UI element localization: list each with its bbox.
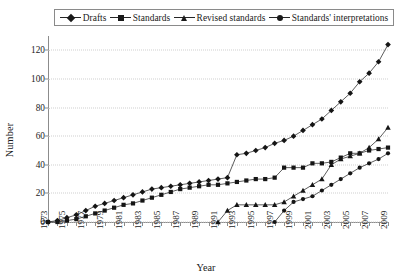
- legend-item-drafts[interactable]: Drafts: [60, 13, 107, 23]
- legend-item-standards-interpretations[interactable]: Standards' interpretations: [269, 13, 388, 23]
- x-tick-mark: [124, 222, 125, 226]
- x-tick-mark: [312, 222, 313, 226]
- data-point-marker: [121, 203, 125, 207]
- data-point-marker: [319, 176, 324, 181]
- data-point-marker: [216, 183, 220, 187]
- data-point-marker: [254, 177, 258, 181]
- y-axis-title: Number: [4, 122, 15, 157]
- x-tick-label: 1973: [39, 211, 48, 229]
- data-point-marker: [301, 166, 305, 170]
- triangle-marker-icon: [174, 14, 195, 22]
- data-point-marker: [263, 177, 267, 181]
- data-point-marker: [376, 147, 380, 151]
- data-point-marker: [244, 178, 248, 182]
- data-point-marker: [300, 188, 305, 193]
- legend-label: Standards: [133, 13, 170, 23]
- data-point-marker: [215, 176, 221, 182]
- data-point-marker: [329, 183, 333, 187]
- data-point-marker: [301, 197, 305, 201]
- data-point-marker: [291, 166, 295, 170]
- data-point-marker: [159, 193, 163, 197]
- data-point-marker: [376, 157, 380, 161]
- data-point-marker: [273, 220, 277, 224]
- data-point-marker: [225, 175, 231, 181]
- data-point-marker: [262, 145, 268, 151]
- data-point-marker: [93, 211, 97, 215]
- data-point-marker: [310, 182, 315, 187]
- data-point-marker: [112, 206, 116, 210]
- series-line-drafts: [48, 45, 388, 222]
- x-tick-mark: [142, 222, 143, 226]
- data-point-marker: [206, 178, 212, 184]
- data-point-marker: [84, 214, 88, 218]
- data-point-marker: [103, 208, 107, 212]
- data-point-marker: [74, 217, 78, 221]
- data-point-marker: [131, 201, 135, 205]
- data-point-marker: [188, 186, 192, 190]
- data-point-marker: [339, 177, 343, 181]
- data-point-marker: [253, 148, 259, 154]
- legend-label: Revised standards: [197, 13, 266, 23]
- data-point-marker: [65, 218, 69, 222]
- data-point-marker: [149, 186, 155, 192]
- y-tick-label: 40: [36, 160, 45, 169]
- data-point-marker: [235, 180, 239, 184]
- data-point-marker: [281, 138, 287, 144]
- x-tick-mark: [294, 222, 295, 226]
- data-point-marker: [243, 150, 249, 156]
- x-tick-mark: [105, 222, 106, 226]
- x-tick-mark: [237, 222, 238, 226]
- data-point-marker: [83, 208, 89, 214]
- square-marker-icon: [110, 14, 131, 22]
- data-point-marker: [291, 133, 297, 139]
- data-point-marker: [158, 185, 164, 191]
- data-point-marker: [169, 190, 173, 194]
- data-point-marker: [291, 200, 295, 204]
- legend-item-standards[interactable]: Standards: [110, 13, 170, 23]
- data-point-marker: [150, 196, 154, 200]
- data-point-marker: [111, 198, 117, 204]
- data-point-marker: [348, 171, 352, 175]
- x-axis-title: Year: [0, 262, 412, 273]
- data-point-marker: [385, 125, 390, 130]
- data-point-marker: [178, 187, 182, 191]
- data-point-marker: [386, 151, 390, 155]
- data-point-marker: [46, 220, 50, 224]
- chart-legend: Drafts Standards Revised standards Stand…: [54, 9, 394, 26]
- data-point-marker: [385, 42, 391, 48]
- data-point-marker: [386, 146, 390, 150]
- data-point-marker: [310, 161, 314, 165]
- data-point-marker: [282, 208, 286, 212]
- data-point-marker: [196, 179, 202, 185]
- data-point-marker: [310, 194, 314, 198]
- data-point-marker: [206, 183, 210, 187]
- data-point-marker: [73, 212, 79, 218]
- legend-label: Standards' interpretations: [292, 13, 388, 23]
- data-point-marker: [121, 195, 127, 201]
- data-point-marker: [300, 128, 306, 134]
- data-point-marker: [320, 161, 324, 165]
- y-tick-label: 120: [31, 46, 45, 55]
- circle-marker-icon: [269, 14, 290, 22]
- data-point-marker: [225, 181, 229, 185]
- plot-area: 020406080100120 197319751977197919811983…: [48, 36, 388, 222]
- data-point-marker: [291, 194, 296, 199]
- data-point-marker: [358, 166, 362, 170]
- legend-item-revised-standards[interactable]: Revised standards: [174, 13, 266, 23]
- data-point-marker: [225, 208, 230, 213]
- series-layer: [48, 36, 388, 222]
- data-point-marker: [92, 203, 98, 209]
- diamond-marker-icon: [60, 14, 81, 22]
- y-tick-label: 80: [36, 103, 45, 112]
- data-point-marker: [140, 189, 146, 195]
- data-point-marker: [234, 152, 240, 158]
- x-tick-mark: [256, 222, 257, 226]
- data-point-marker: [187, 181, 193, 187]
- data-point-marker: [367, 161, 371, 165]
- y-tick-label: 20: [36, 189, 45, 198]
- data-point-marker: [102, 201, 108, 207]
- data-point-marker: [272, 140, 278, 146]
- data-point-marker: [310, 122, 316, 128]
- data-point-marker: [177, 182, 183, 188]
- y-tick-label: 100: [31, 74, 45, 83]
